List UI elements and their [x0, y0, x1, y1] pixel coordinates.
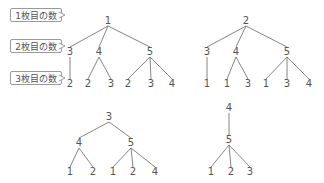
- tree-edge: [236, 57, 248, 79]
- tree-leaf-node: 2: [125, 79, 131, 89]
- tree-edge: [150, 57, 151, 79]
- pointer-tail-icon: [59, 74, 67, 82]
- tree-leaf-node: 1: [110, 167, 116, 177]
- tree-edge: [70, 148, 79, 167]
- tree-edge: [131, 148, 133, 167]
- tree-leaf-node: 4: [152, 167, 158, 177]
- tree-edge: [266, 57, 287, 79]
- tree-edge: [236, 26, 246, 47]
- level-label-text: 1枚目の数: [15, 9, 57, 22]
- tree-edge: [211, 145, 229, 167]
- tree-edge: [99, 26, 108, 47]
- tree-edge: [246, 26, 287, 47]
- tree-leaf-node: 3: [108, 79, 114, 89]
- tree-edge: [229, 145, 231, 167]
- tree-leaf-node: 3: [247, 167, 253, 177]
- tree-edge: [108, 26, 150, 47]
- tree-root-node: 2: [243, 16, 249, 26]
- tree-leaf-node: 3: [148, 79, 154, 89]
- level-label-2: 2枚目の数: [10, 39, 62, 53]
- tree-root-node: 4: [226, 103, 232, 113]
- tree-edge: [207, 26, 246, 47]
- level-label-3: 3枚目の数: [10, 71, 62, 85]
- tree-leaf-node: 1: [263, 79, 269, 89]
- tree-leaf-node: 1: [208, 167, 214, 177]
- tree-second-node: 5: [147, 47, 153, 57]
- tree-edge: [99, 57, 111, 79]
- pointer-tail-icon: [59, 42, 67, 50]
- tree-edge: [70, 26, 108, 47]
- tree-second-node: 5: [226, 135, 232, 145]
- tree-second-node: 4: [76, 138, 82, 148]
- tree-edge: [287, 57, 309, 79]
- tree-leaf-node: 4: [306, 79, 312, 89]
- tree-leaf-node: 2: [228, 167, 234, 177]
- tree-second-node: 5: [284, 47, 290, 57]
- tree-second-node: 3: [204, 47, 210, 57]
- tree-root-node: 3: [106, 112, 112, 122]
- tree-root-node: 1: [105, 16, 111, 26]
- tree-leaf-node: 3: [245, 79, 251, 89]
- tree-edge: [229, 145, 250, 167]
- pointer-tail-icon: [59, 11, 67, 19]
- tree-leaf-node: 2: [67, 79, 73, 89]
- tree-second-node: 4: [233, 47, 239, 57]
- tree-edge: [113, 148, 131, 167]
- tree-edge: [109, 122, 131, 138]
- tree-edge: [88, 57, 99, 79]
- tree-second-node: 4: [96, 47, 102, 57]
- tree-edge: [227, 57, 236, 79]
- tree-second-node: 3: [67, 47, 73, 57]
- tree-edge: [79, 122, 109, 138]
- level-label-text: 3枚目の数: [15, 72, 57, 85]
- tree-leaf-node: 4: [169, 79, 175, 89]
- tree-edge: [150, 57, 172, 79]
- tree-edge: [128, 57, 150, 79]
- tree-leaf-node: 3: [284, 79, 290, 89]
- tree-edges: [0, 0, 324, 183]
- tree-edge: [131, 148, 155, 167]
- tree-leaf-node: 2: [130, 167, 136, 177]
- level-label-1: 1枚目の数: [10, 8, 62, 22]
- tree-leaf-node: 2: [85, 79, 91, 89]
- tree-leaf-node: 1: [224, 79, 230, 89]
- tree-leaf-node: 1: [204, 79, 210, 89]
- tree-leaf-node: 1: [67, 167, 73, 177]
- level-label-text: 2枚目の数: [15, 40, 57, 53]
- tree-leaf-node: 2: [90, 167, 96, 177]
- tree-edge: [79, 148, 93, 167]
- tree-second-node: 5: [128, 138, 134, 148]
